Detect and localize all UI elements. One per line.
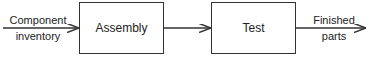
- output-label-line1: Finished: [305, 14, 363, 27]
- output-label: Finished parts: [305, 14, 363, 43]
- test-label: Test: [242, 21, 264, 35]
- test-box: Test: [211, 2, 296, 54]
- input-label-line2: inventory: [2, 30, 74, 43]
- input-label: Component inventory: [2, 14, 74, 43]
- assembly-box: Assembly: [79, 2, 164, 54]
- assembly-label: Assembly: [95, 21, 147, 35]
- output-label-line2: parts: [305, 30, 363, 43]
- input-label-line1: Component: [2, 14, 74, 27]
